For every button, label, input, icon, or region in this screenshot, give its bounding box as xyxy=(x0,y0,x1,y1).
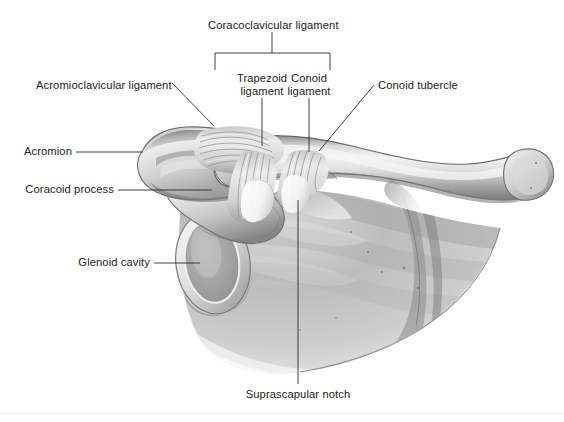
label-conoid-ligament-line1: Conoid xyxy=(272,72,346,85)
clavicle-end-speckle-a xyxy=(535,162,537,164)
shoulder-joint-illustration xyxy=(0,0,564,422)
label-suprascapular-notch: Suprascapular notch xyxy=(238,388,358,401)
leader-acromioclavicular-ligament xyxy=(172,83,214,126)
label-glenoid-cavity: Glenoid cavity xyxy=(0,256,150,269)
label-conoid-ligament-line2: ligament xyxy=(272,85,346,98)
label-conoid-tubercle: Conoid tubercle xyxy=(378,79,458,92)
label-coracoid-process: Coracoid process xyxy=(0,183,114,196)
label-coracoclavicular-ligament: Coracoclavicular ligament xyxy=(208,19,339,32)
clavicle-end-speckle-b xyxy=(530,187,532,189)
anatomy-figure: Coracoclavicular ligament Trapezoid liga… xyxy=(0,0,564,422)
label-acromioclavicular-ligament: Acromioclavicular ligament xyxy=(36,79,172,92)
label-acromion: Acromion xyxy=(0,145,72,158)
figure-bottom-rule xyxy=(0,413,564,414)
